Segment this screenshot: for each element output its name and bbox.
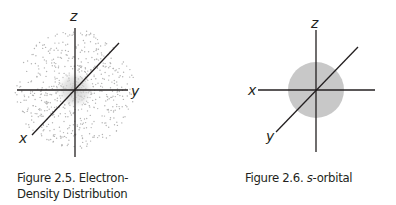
caption-suffix: -orbital [313, 170, 353, 185]
z-axis-label: z [69, 8, 78, 24]
figure-2-6-caption: Figure 2.6. s-orbital [245, 170, 352, 186]
caption-line-2: Density Distribution [17, 186, 128, 202]
caption-line-1: Figure 2.5. Electron- [17, 170, 128, 186]
y-axis-label: y [265, 128, 275, 144]
y-axis-label: y [130, 83, 140, 99]
x-axis-label: x [247, 82, 257, 98]
electron-density-diagram: z y x [15, 8, 140, 157]
z-axis-label: z [310, 15, 319, 31]
caption-prefix: Figure 2.6. [245, 170, 307, 185]
s-orbital-diagram: z x y [247, 15, 375, 152]
x-axis-label: x [18, 130, 28, 146]
figure-2-5-caption: Figure 2.5. Electron- Density Distributi… [17, 170, 128, 202]
